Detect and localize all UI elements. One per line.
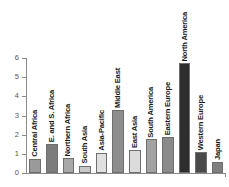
y-axis-tick [22, 154, 26, 155]
bar[interactable] [112, 110, 124, 173]
y-axis-tick [22, 77, 26, 78]
bar-label: South Asia [81, 126, 89, 163]
y-axis-tick-label: 4 [0, 92, 19, 100]
bar[interactable] [129, 150, 141, 173]
y-axis-tick [22, 173, 26, 174]
y-axis-tick-label: 6 [0, 54, 19, 62]
bar-label: Northern Africa [64, 104, 72, 156]
bar[interactable] [162, 137, 174, 173]
y-axis-tick-label: 2 [0, 131, 19, 139]
bar[interactable] [96, 153, 108, 173]
bar[interactable] [146, 139, 158, 173]
bar-label: Western Europe [197, 95, 205, 150]
y-axis-tick [22, 96, 26, 97]
bar-label: East Asia [131, 116, 139, 148]
x-axis-line [26, 173, 226, 174]
bar[interactable] [63, 158, 75, 173]
y-axis-tick [22, 116, 26, 117]
y-axis-tick-label: 3 [0, 112, 19, 120]
bar-label: Asia-Pacific [98, 110, 106, 151]
plot-area: Central AfricaE. and S. AfricaNorthern A… [27, 58, 226, 173]
bar[interactable] [29, 159, 41, 173]
bar[interactable] [195, 152, 207, 173]
bar-label: Eastern Europe [164, 82, 172, 135]
x-axis-end-tick [225, 173, 226, 177]
bar-label: South America [147, 87, 155, 138]
bar-label: Japan [214, 139, 222, 160]
bar[interactable] [79, 166, 91, 173]
bar[interactable] [179, 63, 191, 173]
y-axis-tick [22, 58, 26, 59]
y-axis-tick [22, 135, 26, 136]
bar[interactable] [46, 144, 58, 173]
y-axis-tick-label: 1 [0, 150, 19, 158]
bar-label: Middle East [114, 68, 122, 108]
bar-chart: 0123456 Central AfricaE. and S. AfricaNo… [0, 0, 229, 187]
bar-label: Central Africa [31, 110, 39, 157]
bar-label: E. and S. Africa [48, 90, 56, 142]
bar-label: North America [181, 12, 189, 61]
y-axis-tick-label: 5 [0, 73, 19, 81]
y-axis-tick-label: 0 [0, 169, 19, 177]
bar[interactable] [212, 162, 224, 174]
